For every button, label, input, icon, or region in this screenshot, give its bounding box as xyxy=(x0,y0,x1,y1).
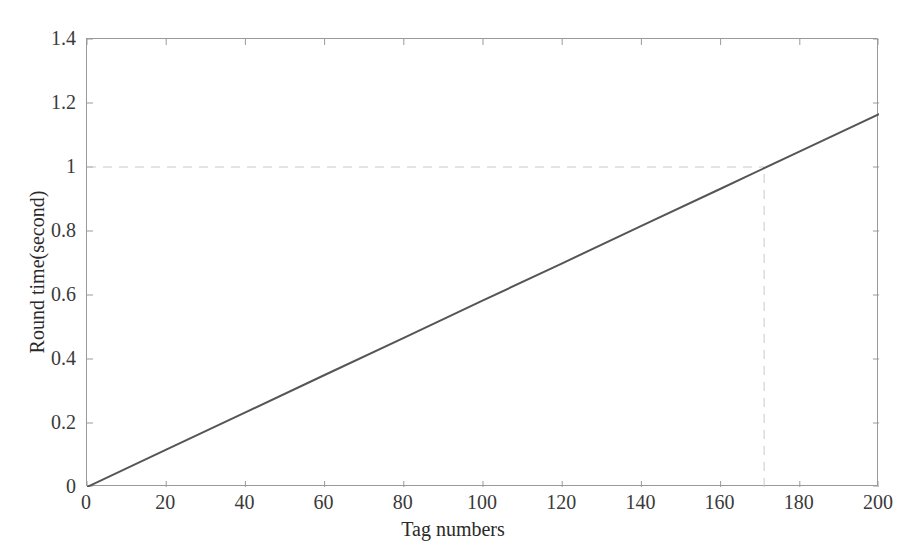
x-tick-label: 200 xyxy=(863,492,893,512)
x-axis-tick-labels: 020406080100120140160180200 xyxy=(86,492,878,518)
y-tick-label: 1.4 xyxy=(51,28,76,48)
y-tick-label: 0.2 xyxy=(51,412,76,432)
x-tick-label: 0 xyxy=(81,492,91,512)
x-tick-label: 100 xyxy=(467,492,497,512)
y-tick-label: 0.6 xyxy=(51,284,76,304)
y-axis-title: Round time(second) xyxy=(27,172,47,372)
plot-area xyxy=(86,38,878,486)
x-axis-title: Tag numbers xyxy=(0,518,906,540)
x-tick-label: 40 xyxy=(234,492,254,512)
plot-canvas xyxy=(87,39,879,487)
y-tick-label: 0 xyxy=(66,476,76,496)
data-series xyxy=(87,114,879,487)
x-tick-label: 120 xyxy=(546,492,576,512)
y-tick-label: 0.8 xyxy=(51,220,76,240)
x-tick-label: 180 xyxy=(784,492,814,512)
y-tick-label: 1 xyxy=(66,156,76,176)
x-tick-label: 20 xyxy=(155,492,175,512)
x-tick-label: 140 xyxy=(625,492,655,512)
figure-container: 00.20.40.60.811.21.4 Round time(second) … xyxy=(0,0,906,553)
y-tick-label: 1.2 xyxy=(51,92,76,112)
x-tick-label: 160 xyxy=(705,492,735,512)
x-tick-label: 60 xyxy=(314,492,334,512)
y-tick-label: 0.4 xyxy=(51,348,76,368)
x-tick-label: 80 xyxy=(393,492,413,512)
axis-tick-marks xyxy=(87,39,879,487)
series-line-0 xyxy=(87,114,879,487)
